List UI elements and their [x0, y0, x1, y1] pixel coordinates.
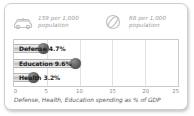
stat-item-cars: 159 per 1,000population: [5, 13, 96, 31]
x-tick-10: 10: [76, 88, 83, 94]
bar-label-defense: Defense 4.7%: [19, 44, 66, 53]
ball-icon: [103, 13, 125, 31]
stat-item-second: 68 per 1,000population: [96, 13, 187, 31]
x-tick-25: 25: [172, 88, 179, 94]
stat-text-second: 68 per 1,000population: [129, 15, 166, 29]
bar-row-defense: Defense 4.7%: [14, 43, 178, 54]
stat-text-cars: 159 per 1,000population: [38, 15, 79, 29]
x-tick-20: 20: [142, 88, 149, 94]
x-tick-5: 5: [44, 88, 47, 94]
bar-rows: Defense 4.7% Education 9.6% Health 3.2%: [14, 40, 178, 86]
x-tick-15: 15: [109, 88, 116, 94]
x-tick-0: 0: [14, 88, 17, 94]
bar-label-education: Education 9.6%: [19, 59, 71, 68]
infographic-card: 159 per 1,000population 68 per 1,000popu…: [4, 3, 188, 110]
statistics-strip: 159 per 1,000population 68 per 1,000popu…: [5, 6, 187, 38]
bar-marker-education: [70, 58, 81, 69]
car-icon: [12, 13, 34, 31]
bar-label-health: Health 3.2%: [19, 73, 60, 82]
bar-row-health: Health 3.2%: [14, 72, 178, 83]
bar-chart-plot-area: Defense 4.7% Education 9.6% Health 3.2%: [13, 39, 179, 87]
bar-row-education: Education 9.6%: [14, 58, 178, 69]
x-axis: 0 5 10 15 20 25: [13, 88, 179, 96]
chart-caption: Defense, Health, Education spending as %…: [14, 97, 181, 103]
